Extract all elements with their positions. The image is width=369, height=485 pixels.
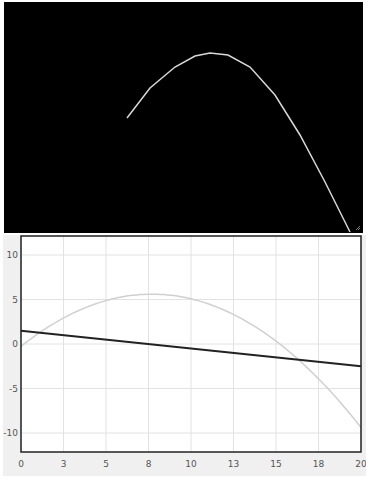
x-tick-label: 18 — [313, 459, 325, 469]
chart-panel: 035810131518201050-5-10 — [3, 235, 366, 476]
x-tick-label: 3 — [61, 459, 67, 469]
top-curve — [127, 53, 350, 232]
y-tick-label: 10 — [7, 250, 19, 260]
y-tick-label: -5 — [9, 384, 18, 394]
x-tick-label: 20 — [355, 459, 366, 469]
y-tick-label: 5 — [12, 295, 18, 305]
top-canvas-panel — [4, 2, 363, 233]
x-tick-label: 10 — [185, 459, 197, 469]
x-tick-label: 13 — [228, 459, 239, 469]
resize-grip-icon[interactable] — [356, 226, 360, 230]
x-tick-label: 15 — [270, 459, 281, 469]
x-tick-label: 0 — [18, 459, 24, 469]
x-tick-label: 8 — [146, 459, 152, 469]
x-tick-label: 5 — [103, 459, 109, 469]
y-tick-label: 0 — [12, 339, 18, 349]
top-curve-canvas — [4, 2, 363, 233]
line-chart: 035810131518201050-5-10 — [3, 235, 366, 476]
y-tick-label: -10 — [3, 428, 18, 438]
